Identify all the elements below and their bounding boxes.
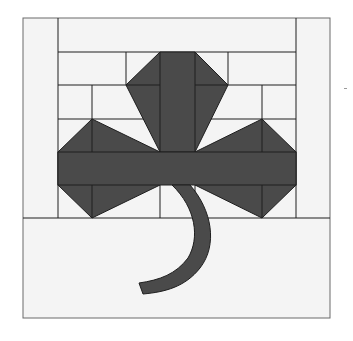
speck-mark — [344, 88, 347, 89]
shamrock-quilt-block — [0, 0, 353, 341]
center-band — [58, 152, 296, 185]
